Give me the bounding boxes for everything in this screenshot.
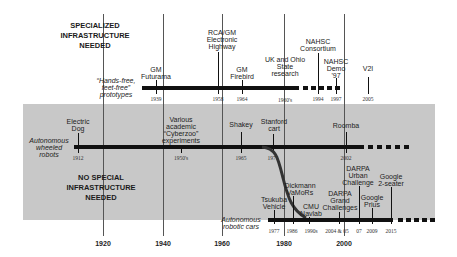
event-year: 1990s — [304, 228, 317, 234]
event-tick — [293, 196, 294, 224]
label-line: robotic cars — [221, 223, 260, 230]
event-year: 1986 — [287, 228, 298, 234]
event-tick — [372, 208, 373, 224]
timeline-continuation-dash — [406, 218, 411, 222]
event-tick — [274, 210, 275, 224]
event-name: Navlab — [300, 210, 322, 217]
event-darpa-urban-challenge: DARPA Urban Challenge — [342, 165, 374, 186]
event-google-2-seater: Google 2-seater — [378, 173, 404, 187]
event-name: Urban — [342, 172, 374, 179]
event-darpa-grand-challenges: DARPA Grand Challenges — [322, 190, 357, 211]
event-google-prius: Google Prius — [361, 194, 384, 208]
timeline-continuation-dash — [430, 218, 435, 222]
event-name: Prius — [361, 201, 384, 208]
event-name: Google — [361, 194, 384, 201]
event-name: DARPA — [342, 165, 374, 172]
event-name: Vehicle — [261, 203, 287, 210]
robotic-cars-timeline-bar — [268, 218, 393, 222]
event-tick — [391, 187, 392, 224]
timeline-continuation-dash — [414, 218, 419, 222]
event-cmu-navlab: CMU Navlab — [300, 203, 322, 217]
axis-label-2000: 2000 — [336, 240, 352, 247]
event-year: 2015 — [386, 228, 397, 234]
event-name: Challenges — [322, 204, 357, 211]
event-tsukuba-vehicle: Tsukuba Vehicle — [261, 196, 287, 210]
event-name: VaMoRs — [284, 189, 315, 196]
event-year: 1977 — [269, 228, 280, 234]
axis-label-1940: 1940 — [155, 240, 171, 247]
axis-label-1980: 1980 — [276, 240, 292, 247]
event-dickmann-vamors: Dickmann VaMoRs — [284, 182, 315, 196]
timeline-continuation-dash — [398, 218, 403, 222]
event-name: Challenge — [342, 179, 374, 186]
event-name: CMU — [300, 203, 322, 210]
axis-label-1960: 1960 — [214, 240, 230, 247]
event-name: 2-seater — [378, 180, 404, 187]
event-tick — [339, 212, 340, 224]
event-name: Tsukuba — [261, 196, 287, 203]
axis-label-1920: 1920 — [95, 240, 111, 247]
event-name: Google — [378, 173, 404, 180]
label-line: Autonomous — [221, 216, 260, 223]
event-year: 2009 — [367, 228, 378, 234]
event-year: 07 — [356, 228, 362, 234]
event-name: Dickmann — [284, 182, 315, 189]
event-tick — [309, 217, 310, 224]
event-name: DARPA — [322, 190, 357, 197]
event-name: Grand — [322, 197, 357, 204]
event-year: 2004 & 05 — [325, 228, 349, 234]
robotic-cars-track-label: Autonomous robotic cars — [221, 216, 260, 230]
timeline-continuation-dash — [422, 218, 427, 222]
